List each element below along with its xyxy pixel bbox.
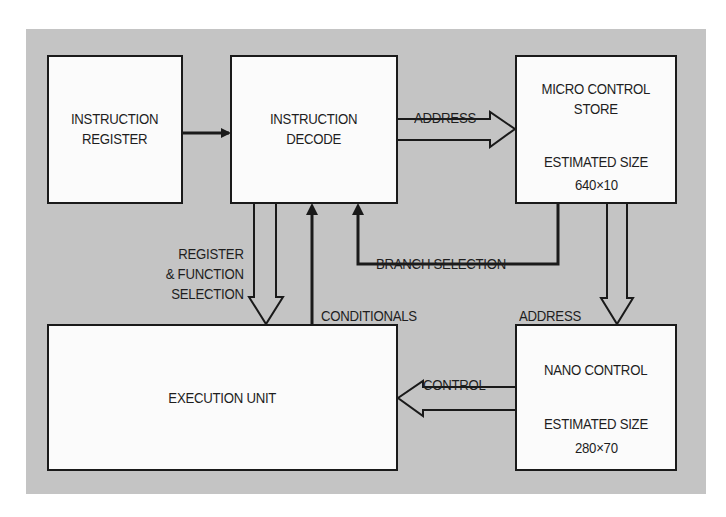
instruction-decode-block: INSTRUCTION DECODE <box>230 55 398 204</box>
branch-selection-label: BRANCH SELECTION <box>376 234 524 274</box>
micro-control-store-size-value: 640×10 <box>575 175 618 195</box>
nano-control-size-label: ESTIMATED SIZE <box>544 414 648 434</box>
nano-control-size-value: 280×70 <box>575 438 618 458</box>
register-function-bus-arrow <box>249 203 283 324</box>
instruction-register-label: INSTRUCTION REGISTER <box>71 109 158 149</box>
control-label: CONTROL <box>423 355 494 395</box>
conditionals-arrow <box>306 203 318 325</box>
address-label-top: ADDRESS <box>414 88 484 128</box>
conditionals-label: CONDITIONALS <box>321 286 430 326</box>
nano-control-block: NANO CONTROL ESTIMATED SIZE 280×70 <box>515 324 677 471</box>
micro-control-store-block: MICRO CONTROL STORE ESTIMATED SIZE 640×1… <box>515 55 677 204</box>
instruction-register-block: INSTRUCTION REGISTER <box>47 55 183 204</box>
execution-unit-label: EXECUTION UNIT <box>169 388 277 408</box>
address-bus-arrow-micro-to-nano <box>601 203 633 324</box>
register-function-selection-label: REGISTER & FUNCTION SELECTION <box>140 224 244 304</box>
execution-unit-block: EXECUTION UNIT <box>47 324 398 471</box>
micro-control-store-size-label: ESTIMATED SIZE <box>544 152 648 172</box>
address-label-bottom: ADDRESS <box>519 286 589 326</box>
micro-control-store-label: MICRO CONTROL STORE <box>542 79 651 119</box>
nano-control-label: NANO CONTROL <box>544 360 647 380</box>
instruction-decode-label: INSTRUCTION DECODE <box>270 109 357 149</box>
